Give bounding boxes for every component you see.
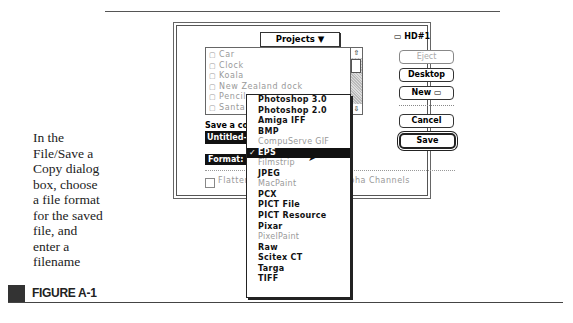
top-rule: [105, 11, 500, 12]
disk-name: HD#1: [404, 32, 430, 41]
scroll-down-icon[interactable]: ⇩: [351, 104, 362, 114]
bottom-rule: [8, 302, 563, 303]
folder-popup[interactable]: Projects ▼: [260, 32, 340, 47]
file-item[interactable]: Car: [209, 50, 235, 59]
disk-label: ▭ HD#1: [394, 32, 430, 41]
menu-item[interactable]: Targa: [247, 264, 350, 275]
save-button[interactable]: Save: [399, 133, 456, 149]
file-item[interactable]: Santa: [209, 103, 245, 112]
scroll-thumb[interactable]: [351, 59, 361, 73]
folder-icon: ▭: [434, 88, 442, 97]
file-item[interactable]: New Zealand dock: [209, 82, 303, 91]
menu-item[interactable]: Pixar: [247, 222, 350, 233]
menu-item[interactable]: Amiga IFF: [247, 116, 350, 127]
menu-item[interactable]: Photoshop 3.0: [247, 95, 350, 106]
figure-marker: [8, 285, 25, 302]
menu-item[interactable]: Photoshop 2.0: [247, 106, 350, 117]
menu-item: MacPaint: [247, 179, 350, 190]
new-label: New: [412, 88, 432, 97]
menu-item: CompuServe GIF: [247, 137, 350, 148]
figure-caption: In the File/Save a Copy dialog box, choo…: [33, 130, 103, 270]
menu-item[interactable]: JPEG: [247, 169, 350, 180]
cancel-button[interactable]: Cancel: [399, 114, 454, 128]
menu-item: PixelPaint: [247, 232, 350, 243]
mouse-pointer-icon: ➤: [308, 152, 316, 163]
separator: [399, 105, 454, 106]
desktop-button[interactable]: Desktop: [399, 68, 454, 82]
format-menu[interactable]: Photoshop 3.0 Photoshop 2.0 Amiga IFF BM…: [246, 94, 351, 298]
file-list-scrollbar[interactable]: ⇧ ⇩: [350, 48, 362, 114]
menu-item[interactable]: PCX: [247, 190, 350, 201]
menu-item: Filmstrip: [247, 158, 350, 169]
menu-item[interactable]: Raw: [247, 243, 350, 254]
menu-item-label: EPS: [258, 148, 276, 157]
file-item[interactable]: Pencil: [209, 92, 246, 101]
figure-label: FIGURE A-1: [32, 286, 97, 300]
menu-item[interactable]: PICT File: [247, 200, 350, 211]
scroll-up-icon[interactable]: ⇧: [351, 48, 362, 58]
menu-item[interactable]: Scitex CT: [247, 253, 350, 264]
menu-item[interactable]: PICT Resource: [247, 211, 350, 222]
checkmark-icon: ✓: [249, 148, 256, 159]
file-item[interactable]: Clock: [209, 61, 244, 70]
menu-item[interactable]: TIFF: [247, 274, 350, 285]
flatten-checkbox[interactable]: [205, 178, 215, 188]
menu-item[interactable]: BMP: [247, 127, 350, 138]
disk-icon: ▭: [394, 32, 402, 41]
file-item[interactable]: Koala: [209, 71, 244, 80]
new-folder-button[interactable]: New ▭: [399, 86, 454, 100]
menu-item-selected[interactable]: ✓EPS: [247, 148, 350, 159]
eject-button[interactable]: Eject: [399, 50, 454, 64]
